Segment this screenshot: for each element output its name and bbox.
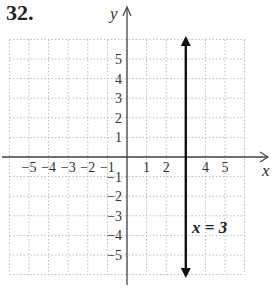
x-tick-label: −2 [80,160,95,175]
y-tick-label: 5 [115,52,122,67]
y-axis-label: y [108,4,118,23]
arrow-down-icon [181,268,191,278]
y-tick-label: 2 [115,111,122,126]
y-tick-label: −4 [107,228,122,243]
x-tick-label: −4 [41,160,56,175]
x-tick-label: 1 [143,160,150,175]
line-equation-label: x = 3 [191,218,228,237]
y-tick-label: 3 [115,91,122,106]
x-axis-label: x [261,161,270,180]
x-tick-label: 5 [222,160,229,175]
arrow-up-icon [181,36,191,46]
y-tick-label: 1 [115,130,122,145]
y-tick-label: −3 [107,209,122,224]
x-tick-label: 2 [163,160,170,175]
x-tick-label: −3 [61,160,76,175]
x-tick-label: 4 [202,160,209,175]
y-tick-label: −5 [107,248,122,263]
y-tick-label: −1 [107,170,122,185]
y-tick-label: 4 [115,72,122,87]
coordinate-plane: xy−5−4−3−2−1124554321−1−2−3−4−5x = 3 [0,0,277,289]
y-tick-label: −2 [107,189,122,204]
x-tick-label: −5 [22,160,37,175]
